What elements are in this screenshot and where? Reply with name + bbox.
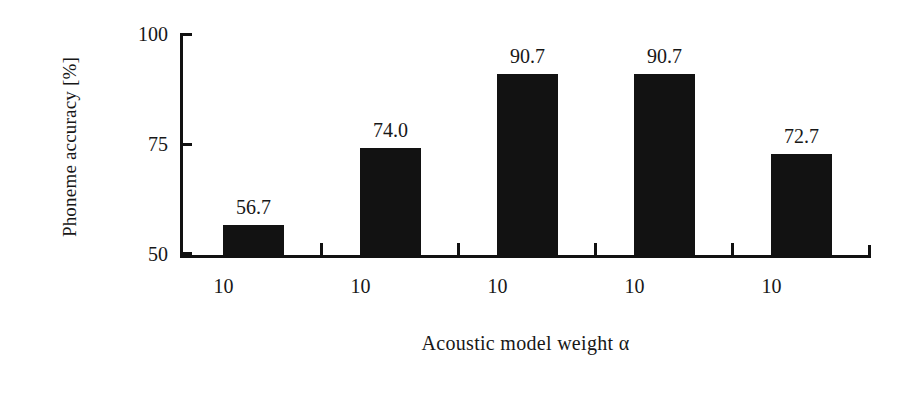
x-axis-title: Acoustic model weight α: [180, 332, 871, 355]
x-tick-label-3: 10: [457, 276, 538, 296]
bar-value-1: 56.7: [213, 197, 294, 217]
bar-2: [360, 148, 421, 255]
bar-4: [634, 74, 695, 255]
x-tick-label-4: 10: [594, 276, 675, 296]
bar-value-4: 90.7: [624, 46, 705, 66]
plot-area: 56.7 74.0 90.7 90.7 72.7: [180, 33, 871, 255]
bar-1: [223, 225, 284, 255]
x-tick-2: [457, 243, 460, 255]
x-axis-line: [180, 255, 871, 258]
y-axis-top-cap: [183, 33, 192, 36]
bar-5: [771, 154, 832, 255]
y-tick-label-75: 75: [108, 134, 168, 154]
y-tick-label-50: 50: [108, 244, 168, 264]
bar-3: [497, 74, 558, 255]
bar-value-5: 72.7: [761, 126, 842, 146]
y-axis-title: Phoneme accuracy [%]: [59, 7, 81, 287]
x-tick-1: [320, 243, 323, 255]
x-tick-4: [731, 243, 734, 255]
y-tick-label-100: 100: [108, 24, 168, 44]
x-tick-label-5: 10: [731, 276, 812, 296]
x-axis-right-cap: [868, 245, 871, 258]
x-tick-label-1: 10: [183, 276, 264, 296]
bar-value-2: 74.0: [350, 120, 431, 140]
y-tick-75: [183, 143, 192, 146]
x-tick-label-2: 10: [320, 276, 401, 296]
bar-chart-figure: Phoneme accuracy [%] 56.7 74.0 90.7 90.7…: [0, 0, 917, 393]
bar-value-3: 90.7: [487, 46, 568, 66]
x-tick-3: [594, 243, 597, 255]
y-tick-50: [183, 252, 192, 255]
